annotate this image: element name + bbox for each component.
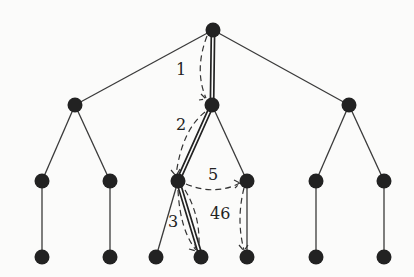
- node-l2: [240, 174, 255, 189]
- node-leaf: [309, 250, 324, 265]
- node-l1-right: [342, 98, 357, 113]
- node-leaf: [377, 250, 392, 265]
- node-leaf: [194, 250, 209, 265]
- arrow-step-3: [178, 190, 196, 250]
- node-l1-middle: [205, 98, 220, 113]
- node-leaf: [240, 250, 255, 265]
- node-l2: [171, 174, 186, 189]
- step-label-5: 5: [208, 167, 218, 183]
- arrow-step-5: [186, 183, 240, 190]
- arrow-step-1: [200, 36, 207, 98]
- tree-diagram: 1 2 3 5 46: [0, 0, 414, 277]
- step-label-3: 3: [168, 214, 178, 230]
- step-label-1: 1: [176, 62, 186, 78]
- node-l2: [377, 174, 392, 189]
- step-label-46: 46: [210, 206, 230, 222]
- node-leaf: [35, 250, 50, 265]
- node-leaf: [103, 250, 118, 265]
- node-l2: [103, 174, 118, 189]
- node-l1-left: [68, 98, 83, 113]
- node-leaf: [149, 250, 164, 265]
- node-l2: [309, 174, 324, 189]
- step-label-2: 2: [176, 117, 186, 133]
- arrow-step-6: [240, 188, 244, 250]
- tree-graph: [0, 0, 414, 277]
- node-root: [206, 23, 221, 38]
- node-l2: [35, 174, 50, 189]
